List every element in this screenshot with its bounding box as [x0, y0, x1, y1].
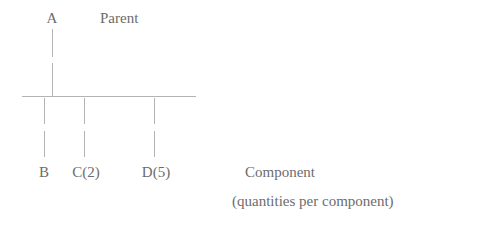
horizontal-connector-bar: [22, 96, 196, 97]
child-stem-upper-segment: [84, 98, 85, 124]
child-stem-lower-segment: [154, 131, 155, 157]
bom-tree-diagram: A Parent B C(2) D(5) Component (quantiti…: [0, 0, 491, 235]
parent-level-caption: Parent: [100, 10, 138, 26]
root-stem-lower-segment: [52, 63, 53, 96]
child-node-label-b: B: [39, 164, 49, 180]
child-stem-lower-segment: [44, 131, 45, 157]
root-stem-upper-segment: [52, 29, 53, 57]
component-level-caption: Component: [245, 164, 315, 180]
child-node-label-d: D(5): [142, 164, 170, 180]
quantities-note-caption: (quantities per component): [232, 193, 394, 209]
child-stem-upper-segment: [44, 98, 45, 124]
child-node-label-c: C(2): [72, 164, 100, 180]
child-stem-lower-segment: [84, 131, 85, 157]
child-stem-upper-segment: [154, 98, 155, 124]
root-node-label: A: [47, 10, 58, 26]
